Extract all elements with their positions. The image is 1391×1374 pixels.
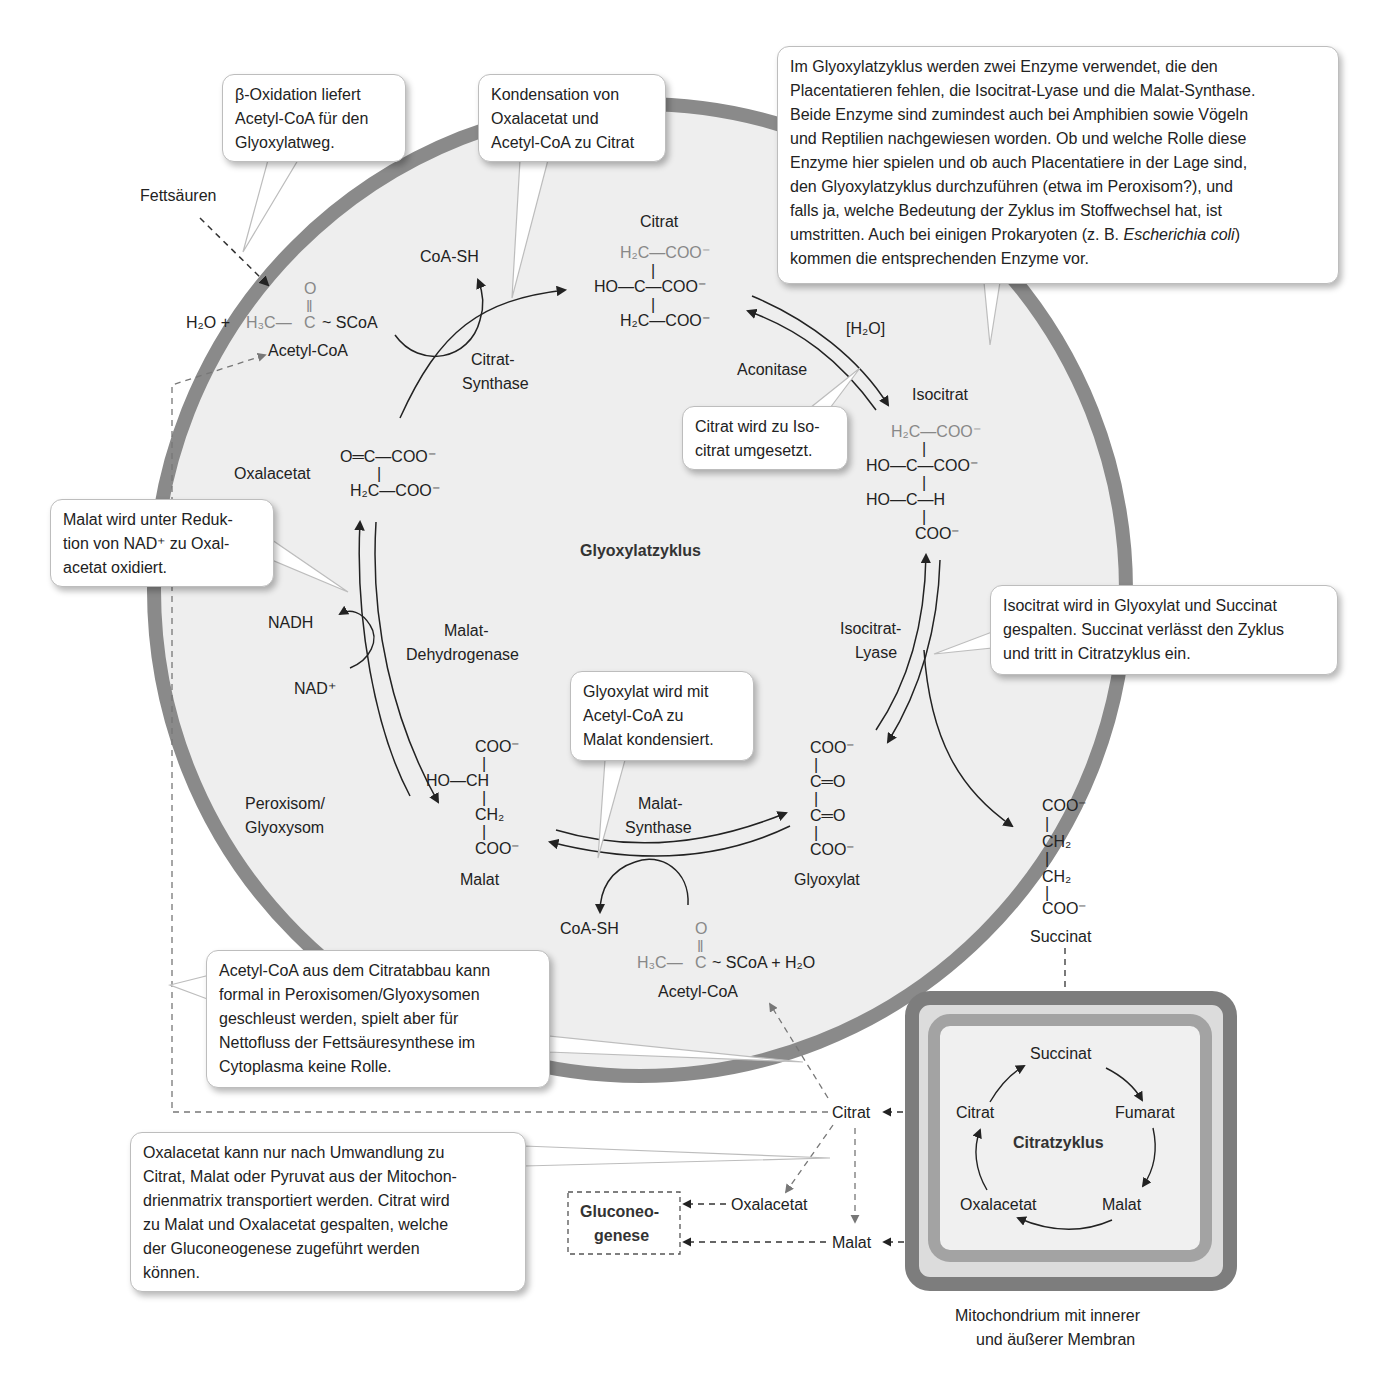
citrate-bond-2: | <box>651 296 655 313</box>
malate-bond-2: | <box>482 789 486 806</box>
pointer-oxalacetat-transport <box>524 1146 830 1166</box>
glyoxylate-line-3: C═O <box>810 807 845 824</box>
acetyl-double-bond: ‖ <box>306 298 313 315</box>
glyoxylate-line-4: COO⁻ <box>810 841 854 858</box>
nad-label: NAD⁺ <box>294 680 336 697</box>
isocitrate-line-3: HO—C—H <box>866 491 945 508</box>
isocitrate-bond-3: | <box>922 508 926 525</box>
water-bracket: [H₂O] <box>846 320 885 337</box>
isocitrate-bond-1: | <box>922 440 926 457</box>
succinate-line-4: COO⁻ <box>1042 900 1086 917</box>
callout-glyoxylat-kondensiert-text: Glyoxylat wird mit Acetyl-CoA zu Malat k… <box>583 680 741 752</box>
callout-isocitrat-gespalten: Isocitrat wird in Glyoxylat und Succinat… <box>990 585 1338 675</box>
malate-line-4: COO⁻ <box>475 840 519 857</box>
citrate-line-1: H₂C—COO⁻ <box>620 244 710 261</box>
cyto-malate: Malat <box>832 1234 872 1251</box>
cyto-oxalacetate: Oxalacetat <box>731 1196 808 1213</box>
acetyl-oxygen: O <box>304 280 316 297</box>
callout-kondensation: Kondensation von Oxalacetat und Acetyl-C… <box>478 74 666 162</box>
fatty-acids-label: Fettsäuren <box>140 187 216 204</box>
succinate-line-2: CH₂ <box>1042 833 1071 850</box>
callout-glyoxylat-kondensiert: Glyoxylat wird mit Acetyl-CoA zu Malat k… <box>570 671 754 761</box>
aconitase-label: Aconitase <box>737 361 807 378</box>
succinate-bond-2: | <box>1045 850 1049 867</box>
callout-beta-oxidation-text: β-Oxidation liefert Acetyl-CoA für den G… <box>235 83 393 155</box>
callout-oxalacetat-transport: Oxalacetat kann nur nach Umwandlung zu C… <box>130 1132 526 1292</box>
gluconeogenesis-line2: genese <box>594 1227 649 1244</box>
citrate-synthase-line2: Synthase <box>462 375 529 392</box>
malate-line-3: CH₂ <box>475 806 504 823</box>
malate-name: Malat <box>460 871 500 888</box>
acetyl2-methyl: H₃C— <box>637 954 683 971</box>
callout-isocitrat-gespalten-text: Isocitrat wird in Glyoxylat und Succinat… <box>1003 594 1325 666</box>
callout-citrat-isocitrat-text: Citrat wird zu Iso- citrat umgesetzt. <box>695 415 835 463</box>
isocitrate-lyase-line1: Isocitrat- <box>840 620 901 637</box>
acetyl-scoa: ~ SCoA <box>322 314 378 331</box>
malate-bond-1: | <box>482 755 486 772</box>
succinate-bond-1: | <box>1045 815 1049 832</box>
glyoxylate-bond-2: | <box>814 790 818 807</box>
gluconeogenesis-line1: Gluconeo- <box>580 1203 659 1220</box>
isocitrate-bond-2: | <box>922 474 926 491</box>
glyoxylate-line-2: C═O <box>810 773 845 790</box>
mito-caption-line2: und äußerer Membran <box>976 1331 1135 1348</box>
oxalacetate-bond: | <box>377 465 381 482</box>
enzyme-info-species: Escherichia coli <box>1124 226 1235 243</box>
malate-synthase-line2: Synthase <box>625 819 692 836</box>
citrate-line-3: H₂C—COO⁻ <box>620 312 710 329</box>
glyoxylate-bond-3: | <box>814 824 818 841</box>
glyoxylate-bond-1: | <box>814 756 818 773</box>
isocitrate-line-2: HO—C—COO⁻ <box>866 457 978 474</box>
succinate-bond-3: | <box>1045 884 1049 901</box>
tca-oxalacetate: Oxalacetat <box>960 1196 1037 1213</box>
isocitrate-line-1: H₂C—COO⁻ <box>891 423 981 440</box>
callout-kondensation-text: Kondensation von Oxalacetat und Acetyl-C… <box>491 83 653 155</box>
tca-malate: Malat <box>1102 1196 1142 1213</box>
tca-citrate: Citrat <box>956 1104 995 1121</box>
acetyl-methyl: H₃C— <box>246 314 292 331</box>
oxalacetate-line-2: H₂C—COO⁻ <box>350 482 440 499</box>
acetyl-coa-label-1: Acetyl-CoA <box>268 342 348 359</box>
compartment-label-line2: Glyoxysom <box>245 819 324 836</box>
callout-malat-oxidiert-text: Malat wird unter Reduk- tion von NAD⁺ zu… <box>63 508 261 580</box>
citrate-name: Citrat <box>640 213 679 230</box>
tca-fumarate: Fumarat <box>1115 1104 1175 1121</box>
glyoxylate-name: Glyoxylat <box>794 871 860 888</box>
acetyl-coa-label-2: Acetyl-CoA <box>658 983 738 1000</box>
callout-beta-oxidation: β-Oxidation liefert Acetyl-CoA für den G… <box>222 74 406 162</box>
isocitrate-name: Isocitrat <box>912 386 969 403</box>
oxalacetate-name: Oxalacetat <box>234 465 311 482</box>
malate-dh-line1: Malat- <box>444 622 488 639</box>
callout-citrat-isocitrat: Citrat wird zu Iso- citrat umgesetzt. <box>682 406 848 470</box>
citrate-bond-1: | <box>651 262 655 279</box>
water-plus: H₂O + <box>186 314 230 331</box>
malate-line-2: HO—CH <box>426 772 489 789</box>
compartment-label-line1: Peroxisom/ <box>245 795 326 812</box>
malate-synthase-line1: Malat- <box>638 795 682 812</box>
malate-bond-3: | <box>482 823 486 840</box>
acetyl2-oxygen: O <box>695 920 707 937</box>
nadh-label: NADH <box>268 614 313 631</box>
succinate-line-1: COO⁻ <box>1042 797 1086 814</box>
citrate-line-2: HO—C—COO⁻ <box>594 278 706 295</box>
callout-acetyl-coa-citratabbau-text: Acetyl-CoA aus dem Citratabbau kann form… <box>219 959 537 1079</box>
gluconeogenesis-box <box>568 1192 680 1254</box>
mito-caption-line1: Mitochondrium mit innerer <box>955 1307 1141 1324</box>
acetyl2-carbonyl-c: C <box>695 954 707 971</box>
callout-acetyl-coa-citratabbau: Acetyl-CoA aus dem Citratabbau kann form… <box>206 950 550 1088</box>
malate-dh-line2: Dehydrogenase <box>406 646 519 663</box>
cyto-citrate: Citrat <box>832 1104 871 1121</box>
tca-succinate: Succinat <box>1030 1045 1092 1062</box>
callout-oxalacetat-transport-text: Oxalacetat kann nur nach Umwandlung zu C… <box>143 1141 513 1285</box>
coa-sh-label-2: CoA-SH <box>560 920 619 937</box>
callout-malat-oxidiert: Malat wird unter Reduk- tion von NAD⁺ zu… <box>50 499 274 587</box>
malate-line-1: COO⁻ <box>475 738 519 755</box>
tca-title: Citratzyklus <box>1013 1134 1104 1151</box>
isocitrate-line-4: COO⁻ <box>915 525 959 542</box>
pointer-beta-oxidation <box>243 160 298 252</box>
callout-enzyme-info-text: Im Glyoxylatzyklus werden zwei Enzyme ve… <box>790 55 1326 271</box>
enzyme-info-text-1: Im Glyoxylatzyklus werden zwei Enzyme ve… <box>790 58 1255 243</box>
citrate-synthase-line1: Citrat- <box>471 351 515 368</box>
oxalacetate-line-1: O═C—COO⁻ <box>340 448 436 465</box>
pointer-citratabbau-left <box>170 975 210 1000</box>
